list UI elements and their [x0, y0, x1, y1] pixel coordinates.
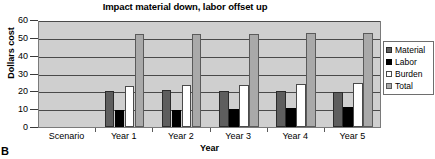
bar-material-year-4	[276, 91, 286, 127]
legend-swatch-icon	[386, 71, 392, 77]
x-axis-tick-label: Scenario	[38, 131, 95, 141]
y-axis-tick	[30, 74, 38, 75]
bar-burden-year-4	[296, 84, 306, 127]
gridline	[39, 57, 380, 58]
y-axis-tick	[30, 56, 38, 57]
y-axis-tick	[30, 20, 38, 21]
gridline	[39, 92, 380, 93]
y-axis-tick	[30, 127, 38, 128]
legend-item-total: Total	[386, 80, 431, 92]
legend-swatch-icon	[386, 47, 392, 53]
gridline	[39, 21, 380, 22]
bar-total-year-4	[306, 33, 316, 127]
legend-swatch-icon	[386, 59, 392, 65]
bar-burden-year-2	[182, 85, 192, 127]
panel-letter: B	[1, 145, 9, 157]
legend-item-label: Total	[395, 81, 413, 91]
plot-area	[38, 21, 381, 128]
bar-labor-year-4	[286, 108, 296, 127]
legend-item-label: Burden	[395, 69, 422, 79]
gridline	[39, 39, 380, 40]
bar-total-year-1	[135, 34, 145, 127]
bar-burden-year-5	[353, 83, 363, 127]
bar-labor-year-3	[229, 109, 239, 127]
legend: MaterialLaborBurdenTotal	[383, 41, 434, 95]
chart-figure: Impact material down, labor offset up Do…	[0, 0, 435, 159]
x-axis-tick-label: Year 4	[267, 131, 324, 141]
legend-item-labor: Labor	[386, 56, 431, 68]
y-axis-tick-label: 60	[0, 16, 28, 25]
x-axis-tick-label: Year 5	[324, 131, 381, 141]
y-axis-tick-label: 50	[0, 34, 28, 43]
bar-total-year-3	[249, 34, 259, 127]
bar-material-year-2	[162, 90, 172, 127]
gridline	[39, 110, 380, 111]
bar-material-year-3	[219, 91, 229, 127]
bar-material-year-5	[333, 92, 343, 127]
gridline	[39, 75, 380, 76]
bar-labor-year-2	[172, 110, 182, 127]
bar-burden-year-1	[125, 86, 135, 127]
bar-labor-year-5	[343, 107, 353, 127]
x-axis-tick-label: Year 2	[152, 131, 209, 141]
y-axis-tick-label: 40	[0, 52, 28, 61]
y-axis-tick	[30, 91, 38, 92]
bar-labor-year-1	[115, 110, 125, 127]
legend-item-material: Material	[386, 44, 431, 56]
legend-item-label: Material	[395, 45, 425, 55]
y-axis-tick-label: 20	[0, 87, 28, 96]
y-axis-tick-label: 30	[0, 70, 28, 79]
bar-total-year-2	[192, 34, 202, 127]
y-axis-tick	[30, 109, 38, 110]
bar-material-year-1	[105, 91, 115, 127]
legend-swatch-icon	[386, 83, 392, 89]
x-axis-title: Year	[38, 143, 381, 153]
y-axis-tick	[30, 38, 38, 39]
bar-burden-year-3	[239, 85, 249, 127]
y-axis-tick-label: 10	[0, 105, 28, 114]
x-axis-tick-label: Year 3	[210, 131, 267, 141]
y-axis-tick-label: 0	[0, 123, 28, 132]
bar-total-year-5	[363, 33, 373, 127]
legend-item-label: Labor	[395, 57, 417, 67]
x-axis-tick-label: Year 1	[95, 131, 152, 141]
legend-item-burden: Burden	[386, 68, 431, 80]
chart-title: Impact material down, labor offset up	[60, 1, 310, 12]
